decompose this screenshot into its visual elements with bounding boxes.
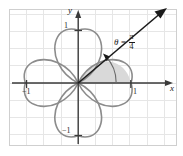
y-axis-label: y	[68, 6, 72, 15]
fraction-numerator: π	[129, 33, 135, 41]
pi-over-four-fraction: π 4	[129, 33, 135, 52]
y-tick-label-negative-one: −1	[62, 127, 71, 135]
theta-annotation: θ = π 4	[114, 33, 135, 52]
equals-sign: =	[120, 38, 127, 47]
plot-canvas	[0, 0, 183, 156]
polar-rose-figure: x y −1 1 1 −1 θ = π 4	[0, 0, 183, 156]
fraction-denominator: 4	[129, 43, 135, 51]
x-tick-label-negative-one: −1	[22, 88, 31, 96]
y-tick-label-positive-one: 1	[64, 22, 68, 30]
x-tick-label-positive-one: 1	[133, 88, 137, 96]
theta-symbol: θ	[114, 38, 118, 47]
x-axis-label: x	[170, 84, 174, 93]
